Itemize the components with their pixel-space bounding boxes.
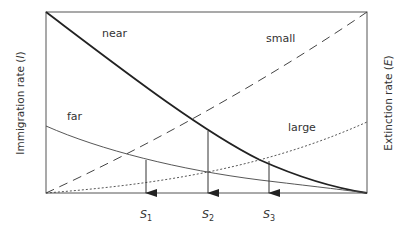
label-s1: S1 xyxy=(140,208,152,223)
y-axis-right-label: Extinction rate (E) xyxy=(382,55,394,150)
y-axis-left-label: Immigration rate (I) xyxy=(14,51,26,154)
curve-near xyxy=(46,12,367,193)
plot-frame xyxy=(46,12,367,193)
label-s2: S2 xyxy=(202,208,214,223)
label-far: far xyxy=(67,110,83,123)
curve-small xyxy=(46,12,367,193)
island-biogeography-diagram: near far small large S1 S2 S3 Immigratio… xyxy=(0,0,411,230)
label-large: large xyxy=(288,121,316,134)
label-s3: S3 xyxy=(263,208,275,223)
label-small: small xyxy=(266,32,295,45)
label-near: near xyxy=(102,27,127,40)
